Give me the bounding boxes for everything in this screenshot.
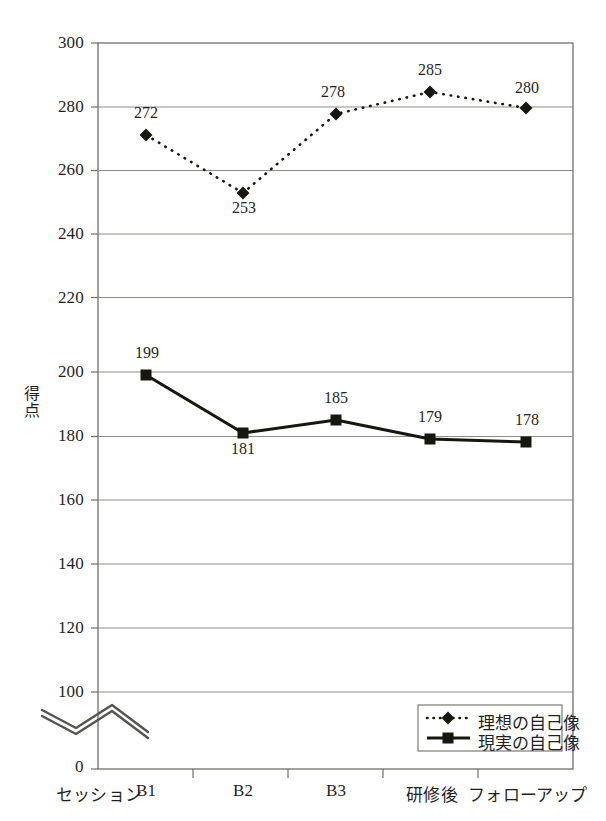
y-tick-200: 200 (38, 362, 84, 382)
y-tick-280: 280 (38, 97, 84, 117)
x-tick-follow-up: フォローアップ (468, 781, 587, 806)
point-label-ideal-b3: 278 (321, 83, 345, 101)
point-label-real-after-training: 179 (418, 408, 442, 426)
y-axis-title-char-1: 得 (22, 385, 42, 402)
y-tick-260: 260 (38, 160, 84, 180)
point-label-ideal-b1: 272 (134, 104, 158, 122)
y-axis-ticks (91, 43, 98, 769)
point-label-real-b2: 181 (231, 440, 255, 458)
x-axis-name: セッション (56, 781, 142, 806)
y-axis-title: 得 点 (22, 385, 42, 420)
x-tick-after-training: 研修後 (406, 781, 458, 806)
y-tick-100: 100 (38, 682, 84, 702)
line-chart: 300 280 260 240 220 200 180 160 140 120 … (0, 0, 606, 821)
x-axis-ticks (193, 769, 478, 778)
y-tick-220: 220 (38, 288, 84, 308)
point-label-real-b3: 185 (324, 389, 348, 407)
y-tick-300: 300 (38, 33, 84, 53)
y-axis-title-char-2: 点 (22, 402, 42, 419)
point-label-ideal-b2: 253 (232, 199, 256, 217)
x-tick-b2: B2 (233, 781, 253, 801)
point-label-ideal-follow-up: 280 (515, 79, 539, 97)
x-tick-b3: B3 (326, 781, 346, 801)
x-tick-b1: B1 (136, 781, 156, 801)
y-tick-240: 240 (38, 224, 84, 244)
y-tick-180: 180 (38, 426, 84, 446)
point-label-real-b1: 199 (135, 344, 159, 362)
point-label-real-follow-up: 178 (515, 411, 539, 429)
y-tick-120: 120 (38, 618, 84, 638)
y-tick-140: 140 (38, 554, 84, 574)
y-tick-160: 160 (38, 490, 84, 510)
y-axis-origin-label: 0 (75, 757, 84, 777)
point-label-ideal-after-training: 285 (418, 61, 442, 79)
legend-label-real-self-image: 現実の自己像 (478, 729, 580, 754)
